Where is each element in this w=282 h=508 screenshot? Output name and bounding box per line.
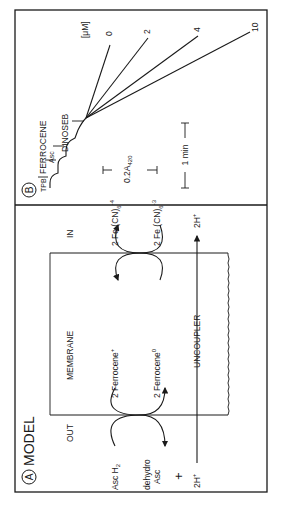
rate-line-10 [86,32,250,118]
panel-b: B TPB FERROCENE Asc DINOSEB [μM] 0 2 4 1… [22,21,260,197]
ferrocene-oxidation-arc-in [116,253,163,280]
asc-oxidation-arc [111,415,165,446]
ferrocene-plus-label: 2 Ferrocene+ [109,348,120,398]
conc-label-4: 4 [192,27,202,32]
unit-label: [μM] [80,21,90,38]
dehydro-asc-label-1: dehydro [142,459,152,490]
addition-tpb: TPB [40,178,47,192]
ferrocene-zero-label: 2 Ferrocene0 [151,348,162,398]
addition-dinoseb: DINOSEB [60,113,70,152]
ferrocyanide-label: 2 Fe (CN)6-4 [109,199,122,246]
panel-a: A MODEL OUT IN MEMBRANE UNCOUPLER Asc H2… [21,199,229,490]
asc-h2-label: Asc H2 [110,463,121,490]
conc-label-2: 2 [142,29,152,34]
figure-svg: A MODEL OUT IN MEMBRANE UNCOUPLER Asc H2… [0,0,282,508]
panel-a-letter: A [24,473,35,480]
panel-b-letter: B [24,186,35,193]
addition-asc: Asc [48,151,55,163]
rate-line-2 [86,38,148,118]
rate-line-4 [86,36,198,118]
proton-out-label: 2H+ [191,473,202,488]
dehydro-asc-label-2: Asc [152,469,162,484]
plus-sign: + [171,472,186,480]
membrane-wavy-bottom [228,253,229,415]
out-label: OUT [65,424,75,442]
in-label: IN [65,230,75,239]
addition-ferrocene: FERROCENE [38,120,48,174]
absorbance-scale-label: 0.2A420 [122,155,133,183]
membrane-label: MEMBRANE [65,331,75,380]
time-scale-label: 1 min [180,144,190,165]
panel-a-title: MODEL [21,416,37,466]
conc-label-10: 10 [250,22,260,32]
outer-frame [15,10,267,492]
conc-label-0: 0 [104,31,114,36]
proton-in-label: 2H+ [191,213,202,228]
figure-stage: A MODEL OUT IN MEMBRANE UNCOUPLER Asc H2… [0,0,282,508]
